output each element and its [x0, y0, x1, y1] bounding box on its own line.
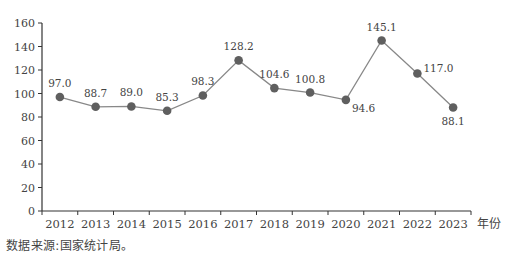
- data-label: 88.1: [441, 115, 464, 127]
- data-point: [342, 96, 351, 105]
- data-point: [449, 103, 458, 112]
- data-point: [413, 69, 422, 78]
- x-tick-label: 2014: [117, 217, 146, 231]
- data-label: 94.6: [352, 102, 376, 114]
- x-tick-label: 2020: [331, 217, 360, 231]
- data-label: 145.1: [367, 21, 397, 33]
- data-point: [127, 102, 136, 111]
- x-tick-label: 2018: [260, 217, 289, 231]
- data-point: [56, 93, 65, 102]
- data-label: 128.2: [224, 40, 254, 52]
- x-tick-label: 2022: [403, 217, 432, 231]
- x-tick-label: 2013: [81, 217, 110, 231]
- data-label: 98.3: [191, 75, 214, 87]
- x-tick-label: 2017: [224, 217, 253, 231]
- line-chart: 020406080100120140160 201220132014201520…: [0, 0, 510, 235]
- y-tick-label: 80: [21, 111, 35, 124]
- data-label: 117.0: [423, 62, 453, 74]
- x-tick-label: 2019: [295, 217, 324, 231]
- data-label: 104.6: [259, 68, 289, 80]
- y-tick-label: 140: [14, 41, 35, 54]
- data-point: [306, 88, 315, 97]
- data-point: [91, 102, 100, 111]
- y-tick-label: 20: [21, 182, 35, 195]
- x-tick-label: 2016: [188, 217, 217, 231]
- data-label: 97.0: [48, 77, 71, 89]
- data-label: 89.0: [120, 86, 143, 98]
- data-label: 85.3: [155, 91, 178, 103]
- x-tick-label: 2023: [438, 217, 467, 231]
- y-tick-label: 120: [14, 64, 35, 77]
- data-point: [377, 36, 386, 45]
- data-label: 100.8: [295, 73, 325, 85]
- y-tick-label: 100: [14, 88, 35, 101]
- x-axis: 2012201320142015201620172018201920202021…: [42, 211, 501, 231]
- y-tick-label: 40: [21, 158, 35, 171]
- data-point: [163, 106, 172, 115]
- source-note: 数据来源:国家统计局。: [6, 236, 133, 253]
- x-tick-label: 2021: [367, 217, 396, 231]
- y-tick-label: 60: [21, 135, 35, 148]
- series-line: [60, 41, 453, 111]
- data-point: [270, 84, 279, 93]
- data-point: [199, 91, 208, 100]
- y-axis: 020406080100120140160: [14, 17, 42, 218]
- x-axis-title: 年份: [477, 217, 501, 231]
- y-tick-label: 0: [28, 205, 35, 218]
- x-tick-label: 2012: [45, 217, 74, 231]
- data-label: 88.7: [84, 87, 107, 99]
- data-series: [56, 36, 458, 115]
- x-tick-label: 2015: [152, 217, 181, 231]
- y-tick-label: 160: [14, 17, 35, 30]
- data-point: [234, 56, 243, 65]
